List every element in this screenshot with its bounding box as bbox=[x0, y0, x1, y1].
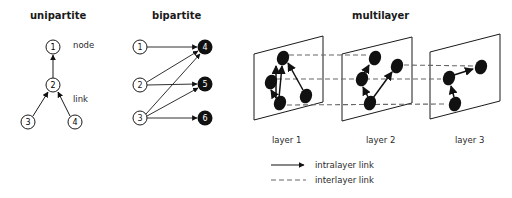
node-label: 6 bbox=[202, 114, 207, 123]
node-label: 1 bbox=[137, 43, 142, 52]
node-label: 2 bbox=[50, 81, 55, 90]
bipartite-title: bipartite bbox=[152, 10, 201, 21]
node-label: 1 bbox=[50, 43, 55, 52]
bipartite-edges bbox=[146, 47, 200, 118]
bipartite-panel: bipartite 1 2 3 4 5 bbox=[133, 10, 213, 126]
interlayer-legend-label: interlayer link bbox=[315, 175, 374, 185]
layer-1-plane bbox=[254, 36, 323, 120]
multilayer-panel: multilayer bbox=[254, 10, 500, 185]
intralayer-legend-label: intralayer link bbox=[315, 160, 374, 170]
legend: intralayer link interlayer link bbox=[271, 160, 374, 185]
link-2-4 bbox=[147, 51, 198, 82]
unipartite-panel: unipartite 1 2 3 4 node link bbox=[21, 10, 94, 129]
layer-2-label: layer 2 bbox=[366, 135, 395, 145]
bipartite-node-3: 3 bbox=[133, 111, 147, 125]
link-4-2 bbox=[58, 92, 70, 116]
node-label: 5 bbox=[202, 80, 207, 89]
node-annotation: node bbox=[73, 40, 94, 50]
layer-3-label: layer 3 bbox=[455, 135, 484, 145]
bipartite-node-2: 2 bbox=[133, 78, 147, 92]
link-3-5 bbox=[147, 88, 198, 116]
layer-3-plane bbox=[430, 34, 500, 119]
bipartite-node-6: 6 bbox=[198, 111, 213, 126]
bipartite-node-4: 4 bbox=[198, 40, 213, 55]
node-label: 3 bbox=[25, 118, 30, 127]
layer-1-label: layer 1 bbox=[272, 135, 301, 145]
unipartite-title: unipartite bbox=[30, 10, 86, 21]
link-3-2 bbox=[33, 92, 48, 116]
multilayer-title: multilayer bbox=[352, 10, 409, 21]
unipartite-node-3: 3 bbox=[21, 115, 35, 129]
node-label: 3 bbox=[137, 114, 142, 123]
bipartite-node-1: 1 bbox=[133, 40, 147, 54]
bipartite-node-5: 5 bbox=[198, 77, 213, 92]
node-label: 2 bbox=[137, 81, 142, 90]
node-label: 4 bbox=[72, 118, 77, 127]
network-types-diagram: unipartite 1 2 3 4 node link bipartite bbox=[0, 0, 512, 198]
unipartite-node-4: 4 bbox=[68, 115, 82, 129]
node-label: 4 bbox=[202, 43, 207, 52]
unipartite-node-2: 2 bbox=[46, 78, 60, 92]
unipartite-node-1: 1 bbox=[46, 40, 60, 54]
link-annotation: link bbox=[73, 94, 88, 104]
